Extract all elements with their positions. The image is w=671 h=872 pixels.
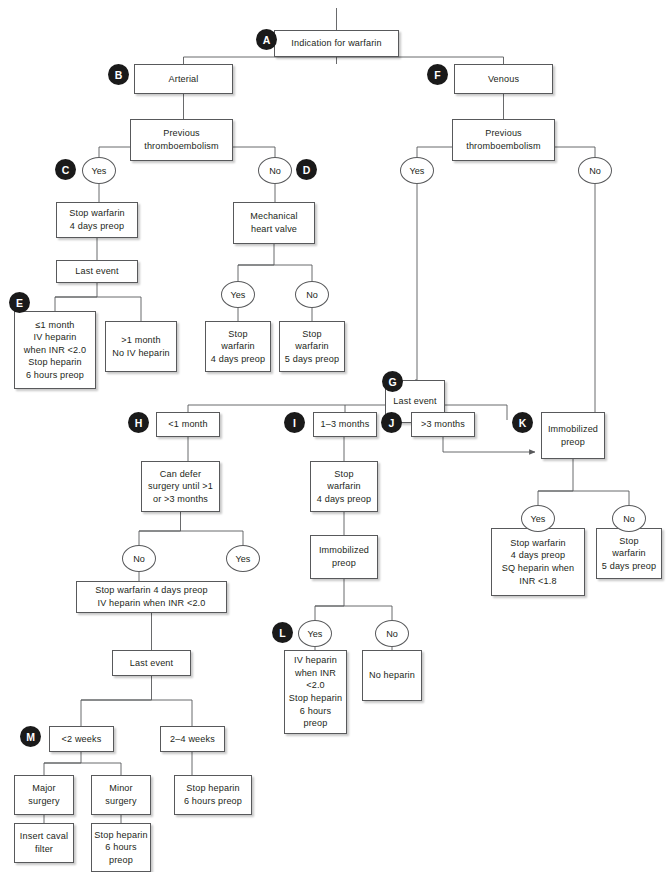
less-1-month[interactable]: <1 month bbox=[156, 412, 220, 437]
no-oval-immobilized-k[interactable]: No bbox=[612, 505, 646, 532]
step-badge-e: E bbox=[9, 292, 30, 313]
oval-label: Yes bbox=[308, 629, 323, 639]
node-label: Last event bbox=[57, 265, 137, 278]
stop-warfarin-4-days-preop-c[interactable]: Stop warfarin4 days preop bbox=[56, 202, 138, 238]
step-badge-f: F bbox=[427, 64, 448, 85]
oval-label: No bbox=[386, 629, 398, 639]
node-label: Indication for warfarin bbox=[275, 37, 398, 50]
node-label: Previousthromboembolism bbox=[453, 127, 554, 152]
venous[interactable]: Venous bbox=[454, 64, 553, 94]
node-label: Stop heparin6 hours preop bbox=[175, 782, 251, 807]
node-label: 2–4 weeks bbox=[161, 733, 224, 746]
iv-heparin-when-inr-l[interactable]: IV heparinwhen INR<2.0Stop heparin6 hour… bbox=[284, 650, 347, 734]
node-label: Arterial bbox=[135, 73, 232, 86]
node-label: Stopwarfarin4 days preop bbox=[311, 468, 377, 506]
step-badge-a: A bbox=[256, 29, 277, 50]
yes-oval-mechanical-valve[interactable]: Yes bbox=[221, 281, 255, 308]
oval-label: Yes bbox=[531, 514, 546, 524]
node-label: >3 months bbox=[412, 418, 474, 431]
oval-label: Yes bbox=[236, 554, 251, 564]
previous-thromboembolism-venous[interactable]: Previousthromboembolism bbox=[452, 119, 555, 161]
connector-line bbox=[315, 579, 392, 620]
node-label: Minorsurgery bbox=[92, 782, 150, 807]
stop-heparin-6-hours-preop-2-4-weeks[interactable]: Stop heparin6 hours preop bbox=[174, 775, 252, 815]
oval-label: No bbox=[133, 554, 145, 564]
stop-heparin-6-hours-preop-minor[interactable]: Stop heparin6 hourspreop bbox=[91, 823, 151, 872]
no-oval-venous-thromb[interactable]: No bbox=[578, 157, 612, 184]
node-label: Stop heparin6 hourspreop bbox=[92, 829, 150, 867]
yes-oval-venous-thromb[interactable]: Yes bbox=[400, 157, 434, 184]
less-equal-1-month-iv-heparin[interactable]: ≤1 monthIV heparinwhen INR <2.0Stop hepa… bbox=[14, 311, 96, 389]
node-label: Stop warfarin4 days preop bbox=[57, 207, 137, 232]
node-label: No heparin bbox=[363, 669, 421, 682]
connector-line bbox=[538, 459, 629, 505]
node-label: Majorsurgery bbox=[15, 782, 73, 807]
connector-line bbox=[184, 57, 504, 64]
step-badge-b: B bbox=[108, 64, 129, 85]
step-badge-h: H bbox=[128, 412, 149, 433]
oval-label: No bbox=[589, 166, 601, 176]
yes-oval-immobilized-k[interactable]: Yes bbox=[521, 505, 555, 532]
node-label: Venous bbox=[455, 73, 552, 86]
greater-1-month-no-iv-heparin[interactable]: >1 monthNo IV heparin bbox=[105, 321, 177, 372]
oval-label: Yes bbox=[410, 166, 425, 176]
node-label: 1–3 months bbox=[314, 418, 376, 431]
oval-label: No bbox=[269, 166, 281, 176]
node-label: Last event bbox=[386, 395, 444, 408]
last-event-c[interactable]: Last event bbox=[56, 260, 138, 283]
yes-oval-can-defer[interactable]: Yes bbox=[226, 545, 260, 572]
no-oval-mechanical-valve[interactable]: No bbox=[295, 281, 329, 308]
connector-line bbox=[415, 184, 417, 380]
stop-warfarin-5-days-preop-k[interactable]: Stopwarfarin5 days preop bbox=[596, 528, 662, 579]
node-label: Stopwarfarin4 days preop bbox=[206, 328, 270, 366]
node-label: Immobilizedpreop bbox=[311, 544, 377, 569]
no-oval-immobilized-i[interactable]: No bbox=[375, 620, 409, 647]
insert-caval-filter[interactable]: Insert cavalfilter bbox=[14, 823, 74, 863]
node-label: >1 monthNo IV heparin bbox=[106, 334, 176, 359]
node-label: IV heparinwhen INR<2.0Stop heparin6 hour… bbox=[285, 654, 346, 730]
node-label: Last event bbox=[113, 657, 190, 670]
previous-thromboembolism-arterial[interactable]: Previousthromboembolism bbox=[130, 119, 233, 161]
greater-3-months[interactable]: >3 months bbox=[411, 412, 475, 437]
connector-line bbox=[44, 752, 121, 775]
stop-warfarin-4-days-preop-valve-yes[interactable]: Stopwarfarin4 days preop bbox=[205, 321, 271, 372]
node-label: Previousthromboembolism bbox=[131, 127, 232, 152]
step-badge-j: J bbox=[381, 412, 402, 433]
two-to-four-weeks[interactable]: 2–4 weeks bbox=[160, 726, 225, 752]
step-badge-m: M bbox=[20, 726, 41, 747]
connector-line bbox=[81, 676, 192, 726]
oval-label: Yes bbox=[231, 290, 246, 300]
mechanical-heart-valve[interactable]: Mechanicalheart valve bbox=[233, 202, 315, 244]
node-label: Insert cavalfilter bbox=[15, 830, 73, 855]
step-badge-c: C bbox=[55, 159, 76, 180]
node-label: <2 weeks bbox=[50, 733, 113, 746]
oval-label: No bbox=[623, 514, 635, 524]
step-badge-k: K bbox=[512, 412, 533, 433]
yes-oval-arterial-thromb[interactable]: Yes bbox=[82, 157, 116, 184]
immobilized-preop-i[interactable]: Immobilizedpreop bbox=[310, 535, 378, 579]
yes-oval-immobilized-i[interactable]: Yes bbox=[298, 620, 332, 647]
no-oval-can-defer[interactable]: No bbox=[122, 545, 156, 572]
step-badge-g: G bbox=[382, 371, 403, 392]
step-badge-l: L bbox=[272, 622, 293, 643]
stop-warfarin-sq-heparin[interactable]: Stop warfarin4 days preopSQ heparin when… bbox=[491, 528, 585, 596]
indication-for-warfarin[interactable]: Indication for warfarin bbox=[274, 30, 399, 57]
major-surgery[interactable]: Majorsurgery bbox=[14, 775, 74, 815]
connector-line bbox=[443, 437, 535, 452]
no-oval-arterial-thromb[interactable]: No bbox=[258, 157, 292, 184]
one-to-three-months[interactable]: 1–3 months bbox=[313, 412, 377, 437]
stop-warfarin-4-days-preop-i[interactable]: Stopwarfarin4 days preop bbox=[310, 461, 378, 512]
immobilized-preop-k[interactable]: Immobilizedpreop bbox=[541, 412, 605, 459]
node-label: <1 month bbox=[157, 418, 219, 431]
stop-warfarin-5-days-preop-valve-no[interactable]: Stopwarfarin5 days preop bbox=[279, 321, 345, 372]
node-label: Can defersurgery until >1or >3 months bbox=[142, 468, 219, 506]
last-event-m[interactable]: Last event bbox=[112, 650, 191, 676]
arterial[interactable]: Arterial bbox=[134, 64, 233, 94]
stop-warfarin-iv-heparin[interactable]: Stop warfarin 4 days preopIV heparin whe… bbox=[76, 581, 227, 613]
minor-surgery[interactable]: Minorsurgery bbox=[91, 775, 151, 815]
no-heparin[interactable]: No heparin bbox=[362, 650, 422, 701]
can-defer-surgery[interactable]: Can defersurgery until >1or >3 months bbox=[141, 461, 220, 512]
oval-label: No bbox=[306, 290, 318, 300]
less-2-weeks[interactable]: <2 weeks bbox=[49, 726, 114, 752]
flowchart-canvas: Indication for warfarinArterialVenousPre… bbox=[0, 0, 671, 872]
